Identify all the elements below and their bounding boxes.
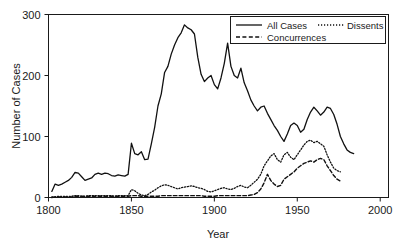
x-tick-label: 1800	[36, 204, 60, 216]
x-tick-label: 2000	[368, 204, 392, 216]
series-all-cases	[52, 25, 354, 192]
x-tick-label: 1900	[202, 204, 226, 216]
chart-legend: All Cases Dissents Concurrences	[231, 17, 386, 44]
y-axis-label: Number of Cases	[10, 63, 22, 149]
line-chart: 0100200300 18001850190019502000 Number o…	[0, 0, 403, 246]
y-tick-label: 100	[22, 131, 40, 143]
y-axis-ticks	[45, 15, 49, 198]
legend-label-all-cases: All Cases	[267, 20, 307, 31]
chart-figure: 0100200300 18001850190019502000 Number o…	[0, 0, 403, 246]
series-dissents	[52, 140, 341, 197]
y-tick-label: 0	[34, 192, 40, 204]
legend-label-dissents: Dissents	[347, 20, 384, 31]
y-tick-label: 200	[22, 70, 40, 82]
x-tick-label: 1950	[285, 204, 309, 216]
series-concurrences	[52, 158, 341, 197]
y-axis-tick-labels: 0100200300	[22, 9, 40, 204]
y-tick-label: 300	[22, 9, 40, 21]
legend-label-concurrences: Concurrences	[267, 32, 326, 43]
x-tick-label: 1850	[119, 204, 143, 216]
x-axis-ticks	[49, 198, 381, 202]
data-series-layer	[52, 25, 354, 198]
x-axis-label: Year	[207, 228, 230, 240]
x-axis-tick-labels: 18001850190019502000	[36, 204, 392, 216]
